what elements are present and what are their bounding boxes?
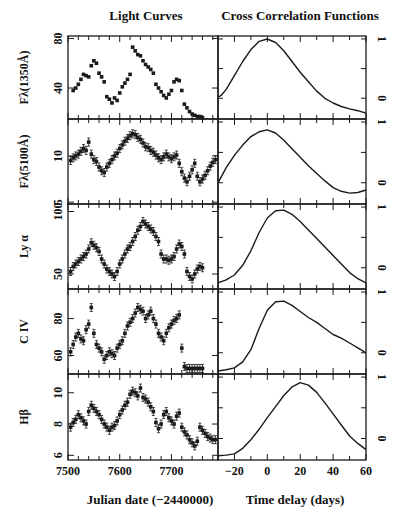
data-point bbox=[203, 174, 207, 178]
data-point bbox=[77, 83, 81, 87]
y-tick-label: 8 bbox=[51, 421, 65, 427]
x-tick-label: 7700 bbox=[159, 464, 183, 478]
data-point bbox=[193, 444, 197, 448]
y-tick-label: 80 bbox=[51, 313, 65, 325]
y-tick-label: 10 bbox=[51, 387, 65, 399]
data-point bbox=[115, 419, 119, 423]
data-point bbox=[193, 162, 197, 166]
data-point bbox=[118, 413, 122, 417]
right-x-axis-label: Time delay (days) bbox=[246, 492, 345, 507]
data-point bbox=[131, 45, 135, 49]
data-point bbox=[102, 80, 106, 84]
data-point bbox=[214, 438, 218, 442]
data-point bbox=[154, 83, 158, 87]
data-point bbox=[185, 433, 189, 437]
data-point bbox=[180, 89, 184, 93]
data-point bbox=[180, 346, 184, 350]
data-point bbox=[180, 425, 184, 429]
data-point bbox=[121, 85, 125, 89]
data-point bbox=[87, 140, 91, 144]
ccf-y-tick-label: 0 bbox=[375, 436, 389, 442]
y-axis-label: Fλ(1350Å) bbox=[17, 51, 31, 105]
data-point bbox=[79, 78, 83, 82]
data-point bbox=[152, 410, 156, 414]
data-point bbox=[164, 410, 168, 414]
y-tick-label: 50 bbox=[51, 268, 65, 280]
data-point bbox=[115, 270, 119, 274]
data-point bbox=[115, 151, 119, 155]
data-point bbox=[149, 405, 153, 409]
y-tick-label: 80 bbox=[51, 32, 65, 44]
data-point bbox=[136, 394, 140, 398]
data-point bbox=[170, 89, 174, 93]
data-point bbox=[214, 158, 218, 162]
data-point bbox=[113, 354, 117, 358]
light-curve-panel bbox=[68, 289, 218, 374]
data-point bbox=[89, 64, 93, 68]
data-point bbox=[167, 92, 171, 96]
data-point bbox=[95, 61, 99, 65]
ccf-curve bbox=[218, 39, 366, 113]
data-point bbox=[152, 71, 156, 75]
ccf-curve bbox=[218, 301, 366, 371]
data-point bbox=[84, 149, 88, 153]
data-point bbox=[71, 343, 75, 347]
data-point bbox=[87, 322, 91, 326]
data-point bbox=[175, 153, 179, 157]
y-axis-label: Fλ(5100Å) bbox=[17, 135, 31, 189]
ccf-curve bbox=[218, 130, 366, 193]
left-x-axis-label: Julian date (−2440000) bbox=[87, 492, 214, 507]
data-point bbox=[126, 400, 130, 404]
data-point bbox=[180, 170, 184, 174]
data-point bbox=[196, 439, 200, 443]
data-point bbox=[100, 75, 104, 79]
data-point bbox=[92, 332, 96, 336]
data-point bbox=[149, 68, 153, 72]
data-point bbox=[139, 386, 143, 390]
ccf-y-tick-label: 0 bbox=[375, 95, 389, 101]
data-point bbox=[123, 81, 127, 85]
ccf-x-tick-label: −20 bbox=[225, 464, 244, 478]
data-point bbox=[177, 411, 181, 415]
y-axis-label: C IV bbox=[17, 319, 31, 344]
data-point bbox=[87, 247, 91, 251]
data-point bbox=[177, 313, 181, 317]
light-curves-figure: Light Curves Cross Correlation Functions… bbox=[0, 0, 398, 512]
y-tick-label: 40 bbox=[51, 82, 65, 94]
data-point bbox=[113, 424, 117, 428]
data-point bbox=[74, 86, 78, 90]
data-point bbox=[149, 309, 153, 313]
data-point bbox=[146, 400, 150, 404]
data-point bbox=[154, 322, 158, 326]
data-point bbox=[133, 49, 137, 53]
ccf-x-tick-label: 40 bbox=[327, 464, 339, 478]
data-point bbox=[100, 350, 104, 354]
left-column-title: Light Curves bbox=[109, 8, 182, 23]
ccf-x-tick-label: 0 bbox=[264, 464, 270, 478]
y-axis-label: Ly α bbox=[17, 235, 31, 258]
data-point bbox=[157, 240, 161, 244]
data-point bbox=[162, 339, 166, 343]
ccf-y-tick-label: 0 bbox=[375, 180, 389, 186]
ccf-x-tick-label: 20 bbox=[294, 464, 306, 478]
data-point bbox=[141, 59, 145, 63]
data-point bbox=[188, 174, 192, 178]
data-point bbox=[206, 169, 210, 173]
right-column-title: Cross Correlation Functions bbox=[221, 8, 379, 23]
ccf-y-tick-label: 1 bbox=[375, 204, 389, 210]
data-point bbox=[89, 306, 93, 310]
data-point bbox=[69, 350, 73, 354]
ccf-y-tick-label: 1 bbox=[375, 119, 389, 125]
data-point bbox=[159, 90, 163, 94]
data-point bbox=[201, 367, 205, 371]
data-point bbox=[180, 245, 184, 249]
data-point bbox=[87, 410, 91, 414]
ccf-curve bbox=[218, 383, 366, 456]
x-tick-label: 7500 bbox=[56, 464, 80, 478]
data-point bbox=[133, 235, 137, 239]
data-point bbox=[97, 250, 101, 254]
ccf-y-tick-label: 1 bbox=[375, 374, 389, 380]
y-axis-label: Hβ bbox=[17, 409, 31, 425]
data-point bbox=[139, 54, 143, 58]
y-tick-label: 10 bbox=[51, 150, 65, 162]
